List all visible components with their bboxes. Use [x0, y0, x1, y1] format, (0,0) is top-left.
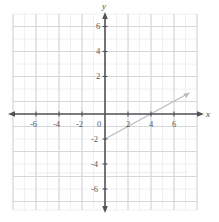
ytick-label-neg2: -2 — [91, 135, 98, 144]
ytick-label-4: 4 — [96, 47, 100, 56]
graph-canvas — [0, 0, 219, 222]
ytick-label-2: 2 — [96, 72, 100, 81]
ytick-label-neg6: -6 — [91, 185, 98, 194]
xtick-label-6: 6 — [172, 120, 176, 129]
x-axis-label: x — [206, 110, 210, 119]
xtick-label-4: 4 — [149, 120, 153, 129]
xtick-label-2: 2 — [126, 120, 130, 129]
xtick-label-neg2: -2 — [76, 120, 83, 129]
ytick-label-6: 6 — [96, 22, 100, 31]
y-axis — [102, 12, 108, 213]
xtick-label-0: 0 — [97, 120, 101, 129]
xtick-label-neg6: -6 — [30, 120, 37, 129]
ytick-label-neg4: -4 — [91, 160, 98, 169]
coordinate-plane-figure: -6 -4 -2 0 2 4 6 6 4 2 -2 -4 -6 x y — [0, 0, 219, 222]
x-axis — [8, 111, 204, 117]
y-axis-label: y — [102, 2, 106, 11]
xtick-label-neg4: -4 — [53, 120, 60, 129]
plotted-line — [105, 93, 189, 139]
scan-artifact — [28, 172, 188, 173]
